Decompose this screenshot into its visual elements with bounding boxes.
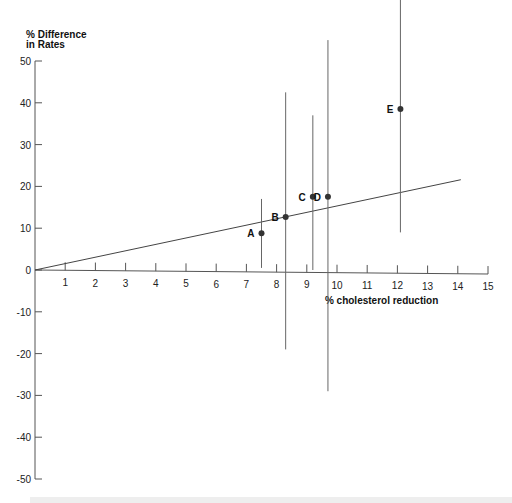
data-point — [259, 230, 265, 236]
point-label: A — [247, 228, 254, 239]
x-tick-label: 11 — [362, 280, 373, 291]
x-tick-label: 3 — [123, 278, 129, 289]
x-tick-label: 12 — [392, 280, 404, 291]
regression-line — [35, 180, 461, 270]
x-tick-label: 15 — [482, 281, 494, 292]
x-tick-label: 14 — [452, 281, 464, 292]
point-label: C — [299, 192, 306, 203]
x-tick-label: 5 — [183, 278, 189, 289]
x-tick-label: 10 — [331, 280, 343, 291]
data-point — [325, 194, 331, 200]
point-label: E — [387, 104, 394, 115]
data-point — [283, 214, 289, 220]
y-tick-label: 40 — [20, 98, 32, 109]
y-tick-label: 0 — [25, 265, 31, 276]
y-tick-label: -30 — [17, 390, 32, 401]
y-tick-label: 20 — [20, 181, 32, 192]
y-tick-label: -10 — [17, 307, 32, 318]
y-tick-label: -40 — [17, 432, 32, 443]
x-tick-label: 6 — [213, 279, 219, 290]
scan-edge — [30, 497, 512, 503]
x-tick-label: 4 — [153, 278, 159, 289]
y-tick-label: 30 — [20, 140, 32, 151]
x-tick-label: 2 — [93, 278, 99, 289]
x-tick-label: 1 — [62, 277, 68, 288]
x-tick-label: 7 — [244, 279, 250, 290]
x-axis-title: % cholesterol reduction — [325, 295, 438, 306]
y-tick-label: 10 — [20, 223, 32, 234]
x-tick-label: 13 — [422, 281, 434, 292]
y-tick-label: 50 — [20, 56, 32, 67]
x-axis-line — [35, 270, 488, 274]
x-tick-label: 9 — [304, 279, 310, 290]
point-label: B — [271, 212, 278, 223]
scatter-chart: 50403020100-10-20-30-40-5012345678910111… — [0, 0, 512, 503]
point-label: D — [314, 192, 321, 203]
y-tick-label: -20 — [17, 349, 32, 360]
data-point — [397, 106, 403, 112]
x-tick-label: 8 — [274, 279, 280, 290]
y-tick-label: -50 — [17, 474, 32, 485]
